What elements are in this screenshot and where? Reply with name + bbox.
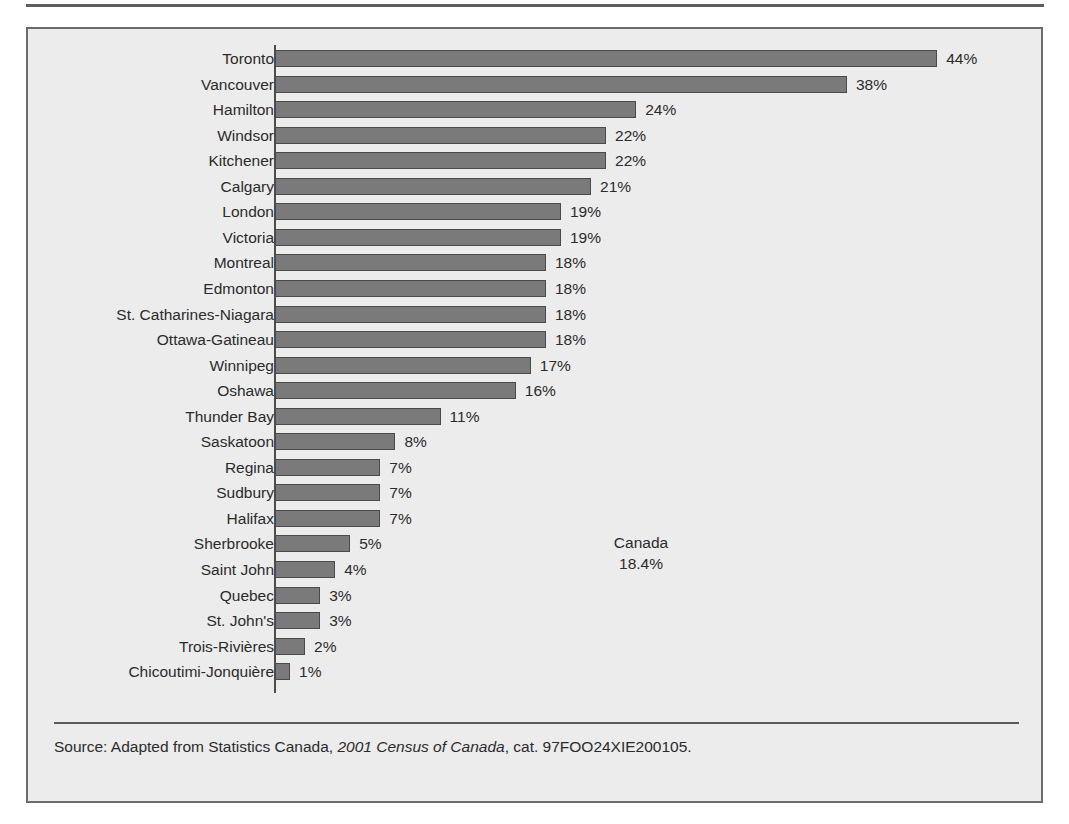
bar-value-label: 44%	[946, 47, 977, 71]
bar-row: London19%	[28, 200, 1045, 224]
bar-chart-plot: Toronto44%Vancouver38%Hamilton24%Windsor…	[28, 29, 1045, 805]
bar	[275, 203, 561, 220]
bar-row: Sherbrooke5%	[28, 532, 1045, 556]
bar-value-label: 22%	[615, 124, 646, 148]
bar	[275, 459, 380, 476]
bar	[275, 433, 395, 450]
bar-value-label: 38%	[856, 73, 887, 97]
bar-value-label: 3%	[329, 609, 351, 633]
bar	[275, 612, 320, 629]
bar-category-label: Winnipeg	[0, 354, 274, 378]
bar-category-label: Windsor	[0, 124, 274, 148]
bar-row: Hamilton24%	[28, 98, 1045, 122]
bar-category-label: London	[0, 200, 274, 224]
bar-row: Oshawa16%	[28, 379, 1045, 403]
bar-row: Montreal18%	[28, 251, 1045, 275]
bar-row: Thunder Bay11%	[28, 405, 1045, 429]
bar-category-label: Kitchener	[0, 149, 274, 173]
bar	[275, 638, 305, 655]
bar-value-label: 18%	[555, 303, 586, 327]
bar-value-label: 3%	[329, 584, 351, 608]
bar-row: Sudbury7%	[28, 481, 1045, 505]
bar-value-label: 16%	[525, 379, 556, 403]
bar	[275, 561, 335, 578]
figure-frame: Toronto44%Vancouver38%Hamilton24%Windsor…	[26, 27, 1043, 803]
top-divider-rule	[26, 4, 1044, 7]
bar-row: Toronto44%	[28, 47, 1045, 71]
bar-value-label: 4%	[344, 558, 366, 582]
bar-value-label: 11%	[450, 405, 480, 429]
bar	[275, 280, 546, 297]
bar-row: Ottawa-Gatineau18%	[28, 328, 1045, 352]
bar-value-label: 7%	[389, 507, 411, 531]
bar	[275, 76, 847, 93]
bar	[275, 254, 546, 271]
source-suffix: , cat. 97FOO24XIE200105.	[505, 738, 692, 755]
bar-category-label: Calgary	[0, 175, 274, 199]
bar-category-label: Oshawa	[0, 379, 274, 403]
bar-value-label: 18%	[555, 277, 586, 301]
bar-category-label: Trois-Rivières	[0, 635, 274, 659]
bar	[275, 127, 606, 144]
bar	[275, 535, 350, 552]
bar	[275, 510, 380, 527]
bar-value-label: 7%	[389, 456, 411, 480]
source-prefix: Source: Adapted from Statistics Canada,	[54, 738, 337, 755]
bar-category-label: Victoria	[0, 226, 274, 250]
bar-value-label: 21%	[600, 175, 631, 199]
bar-value-label: 1%	[299, 660, 321, 684]
canada-annotation-value: 18.4%	[571, 553, 711, 574]
bar-category-label: Thunder Bay	[0, 405, 274, 429]
bar-row: Chicoutimi-Jonquière1%	[28, 660, 1045, 684]
source-title: 2001 Census of Canada	[337, 738, 504, 755]
bar-category-label: Montreal	[0, 251, 274, 275]
bar	[275, 408, 441, 425]
bar-row: St. John's3%	[28, 609, 1045, 633]
bar-category-label: St. Catharines-Niagara	[0, 303, 274, 327]
bar-category-label: Saskatoon	[0, 430, 274, 454]
bar-value-label: 19%	[570, 226, 601, 250]
bar-row: Vancouver38%	[28, 73, 1045, 97]
bar-row: Regina7%	[28, 456, 1045, 480]
bar-value-label: 7%	[389, 481, 411, 505]
bar-category-label: Regina	[0, 456, 274, 480]
bar-row: Saskatoon8%	[28, 430, 1045, 454]
chart-page: Toronto44%Vancouver38%Hamilton24%Windsor…	[0, 0, 1069, 824]
bar-row: Calgary21%	[28, 175, 1045, 199]
bar-category-label: St. John's	[0, 609, 274, 633]
bar	[275, 101, 636, 118]
bar-category-label: Hamilton	[0, 98, 274, 122]
bar-row: Edmonton18%	[28, 277, 1045, 301]
bar-category-label: Vancouver	[0, 73, 274, 97]
bar	[275, 484, 380, 501]
bar	[275, 587, 320, 604]
source-note: Source: Adapted from Statistics Canada, …	[54, 736, 692, 758]
bar	[275, 663, 290, 680]
bar-category-label: Sherbrooke	[0, 532, 274, 556]
bar	[275, 357, 531, 374]
bar-category-label: Chicoutimi-Jonquière	[0, 660, 274, 684]
bar-value-label: 22%	[615, 149, 646, 173]
bar-row: Victoria19%	[28, 226, 1045, 250]
bar-category-label: Edmonton	[0, 277, 274, 301]
bar	[275, 178, 591, 195]
bar-value-label: 17%	[540, 354, 571, 378]
bar	[275, 331, 546, 348]
bar-row: Kitchener22%	[28, 149, 1045, 173]
bar-row: St. Catharines-Niagara18%	[28, 303, 1045, 327]
bar-category-label: Ottawa-Gatineau	[0, 328, 274, 352]
bar-value-label: 24%	[645, 98, 676, 122]
bar-value-label: 18%	[555, 328, 586, 352]
bar-row: Trois-Rivières2%	[28, 635, 1045, 659]
bar-category-label: Saint John	[0, 558, 274, 582]
bar-category-label: Toronto	[0, 47, 274, 71]
bar-value-label: 19%	[570, 200, 601, 224]
bar-row: Halifax7%	[28, 507, 1045, 531]
bar	[275, 50, 937, 67]
bar-row: Saint John4%	[28, 558, 1045, 582]
bar	[275, 152, 606, 169]
bar-row: Quebec3%	[28, 584, 1045, 608]
bar-category-label: Sudbury	[0, 481, 274, 505]
bar-row: Winnipeg17%	[28, 354, 1045, 378]
bar-row: Windsor22%	[28, 124, 1045, 148]
